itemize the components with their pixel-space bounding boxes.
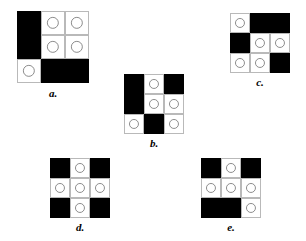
cell-black [65,59,89,83]
circle-icon [255,58,265,68]
cell-white-circle [70,158,90,178]
cell-black [164,74,184,94]
circle-icon [47,41,59,53]
circle-icon [235,18,245,28]
cell-black [221,198,241,218]
cell-white-circle [230,13,250,33]
figure-b-grid [124,74,184,134]
figure-c-grid [230,13,290,73]
figure-option-e[interactable]: e. [201,158,261,218]
figure-e-label: e. [201,221,261,233]
cell-white-circle [201,178,221,198]
figure-b-label: b. [124,137,184,149]
circle-icon [246,183,256,193]
figure-option-b[interactable]: b. [124,74,184,134]
cell-white-circle [70,178,90,198]
cell-white-circle [164,94,184,114]
cell-white-circle [70,198,90,218]
circle-icon [75,203,85,213]
cell-white-circle [41,11,65,35]
cell-white-circle [241,198,261,218]
cell-black [201,198,221,218]
circle-icon [226,163,236,173]
cell-white-circle [250,33,270,53]
figure-option-a[interactable]: a. [17,11,89,83]
circle-icon [275,38,285,48]
cell-black [50,158,70,178]
circle-icon [47,17,59,29]
circle-icon [169,119,179,129]
cell-black [41,59,65,83]
circle-icon [246,203,256,213]
cell-white-circle [221,178,241,198]
cell-black [201,158,221,178]
cell-white-circle [144,94,164,114]
figure-option-c[interactable]: c. [230,13,290,73]
circle-icon [206,183,216,193]
cell-white-circle [164,114,184,134]
cell-black [90,198,110,218]
circle-icon [129,119,139,129]
cell-white-circle [124,114,144,134]
cell-black [17,35,41,59]
cell-white-circle [65,35,89,59]
cell-black [270,53,290,73]
circle-icon [149,79,159,89]
figure-a-label: a. [17,87,89,99]
puzzle-canvas: a. b. c. d. e. [0,0,306,241]
cell-white-circle [230,53,250,73]
cell-white-circle [144,74,164,94]
circle-icon [71,17,83,29]
cell-black [124,74,144,94]
circle-icon [226,183,236,193]
cell-black [90,158,110,178]
cell-white-circle [17,59,41,83]
figure-d-grid [50,158,110,218]
circle-icon [55,183,65,193]
cell-white-circle [50,178,70,198]
figure-option-d[interactable]: d. [50,158,110,218]
circle-icon [169,99,179,109]
circle-icon [75,183,85,193]
cell-white-circle [250,53,270,73]
circle-icon [23,65,35,77]
figure-e-grid [201,158,261,218]
cell-white-circle [221,158,241,178]
circle-icon [255,38,265,48]
cell-white-circle [90,178,110,198]
cell-black [17,11,41,35]
figure-d-label: d. [50,221,110,233]
figure-a-grid [17,11,89,83]
cell-black [241,158,261,178]
cell-white-circle [270,33,290,53]
cell-black [250,13,270,33]
cell-black [270,13,290,33]
cell-black [144,114,164,134]
cell-black [50,198,70,218]
cell-black [230,33,250,53]
cell-white-circle [65,11,89,35]
cell-white-circle [41,35,65,59]
cell-black [124,94,144,114]
cell-white-circle [241,178,261,198]
circle-icon [75,163,85,173]
circle-icon [235,58,245,68]
circle-icon [71,41,83,53]
figure-c-label: c. [230,76,290,88]
circle-icon [95,183,105,193]
circle-icon [149,99,159,109]
